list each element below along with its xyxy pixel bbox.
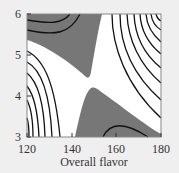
y-tick-4: 4 <box>15 89 21 103</box>
x-axis-label: Overall flavor <box>60 155 128 169</box>
x-tick-180: 180 <box>152 142 170 156</box>
y-tick-3: 3 <box>15 130 21 144</box>
x-tick-140: 140 <box>63 142 81 156</box>
y-tick-5: 5 <box>15 48 21 62</box>
x-tick-160: 160 <box>107 142 125 156</box>
y-tick-6: 6 <box>15 7 21 21</box>
x-tick-120: 120 <box>18 142 36 156</box>
contour-chart: 120 140 160 180 3 4 5 6 Overall flavor <box>0 0 179 173</box>
